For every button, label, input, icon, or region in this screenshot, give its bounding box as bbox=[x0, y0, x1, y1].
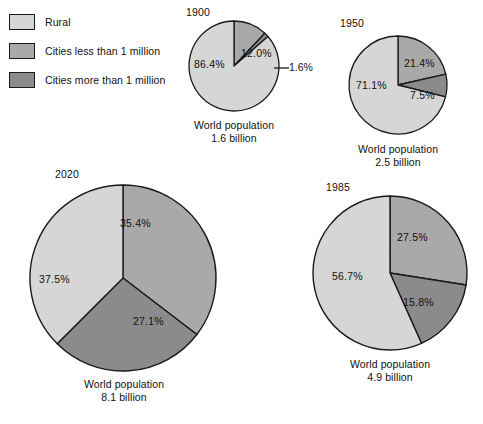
legend-swatch-rural bbox=[9, 14, 35, 30]
pie-2020-caption: World population 8.1 billion bbox=[58, 378, 190, 404]
legend-label-cities-more-than-1-million: Cities more than 1 million bbox=[45, 74, 165, 86]
pie-1985-label-cities-more-than-1-million: 15.8% bbox=[403, 296, 434, 308]
legend-swatch-cities-more-than-1-million bbox=[9, 72, 35, 88]
pie-1950-label-rural: 71.1% bbox=[356, 79, 387, 91]
legend-item-cities-more-than-1-million: Cities more than 1 million bbox=[9, 68, 184, 91]
pie-1900-label-rural: 86.4% bbox=[194, 58, 225, 70]
pie-2020-label-rural: 37.5% bbox=[39, 273, 70, 285]
legend-item-cities-less-than-1-million: Cities less than 1 million bbox=[9, 39, 184, 62]
legend-swatch-cities-less-than-1-million bbox=[9, 43, 35, 59]
pie-1900-label-cities-less-than-1-million: 12.0% bbox=[241, 47, 272, 59]
pie-1985-caption-line1: World population bbox=[324, 358, 456, 371]
legend-item-rural: Rural bbox=[9, 10, 184, 33]
pie-2020-label-cities-less-than-1-million: 35.4% bbox=[120, 217, 151, 229]
pie-1985-caption: World population 4.9 billion bbox=[324, 358, 456, 384]
legend-label-cities-less-than-1-million: Cities less than 1 million bbox=[45, 45, 160, 57]
world-population-pie-figure: Rural Cities less than 1 million Cities … bbox=[0, 0, 483, 424]
pie-1985-label-rural: 56.7% bbox=[332, 270, 363, 282]
pie-1900-caption-line1: World population bbox=[176, 119, 292, 132]
pie-chart-2020: 2020 37.5% 35.4% 27.1% World population … bbox=[29, 184, 221, 404]
pie-1950-caption-line1: World population bbox=[332, 143, 464, 156]
pie-1950-year-label: 1950 bbox=[340, 17, 364, 29]
pie-1900-caption: World population 1.6 billion bbox=[176, 119, 292, 145]
pie-chart-1985: 1985 56.7% 27.5% 15.8% World population … bbox=[312, 195, 472, 385]
pie-chart-1950: 1950 71.1% 21.4% 7.5% World population 2… bbox=[348, 35, 452, 175]
pie-1985-label-cities-less-than-1-million: 27.5% bbox=[397, 231, 428, 243]
legend: Rural Cities less than 1 million Cities … bbox=[9, 10, 184, 97]
pie-1900-leader-line bbox=[274, 66, 290, 70]
pie-2020-label-cities-more-than-1-million: 27.1% bbox=[133, 315, 164, 327]
pie-1950-caption: World population 2.5 billion bbox=[332, 143, 464, 169]
pie-2020-caption-line2: 8.1 billion bbox=[58, 391, 190, 404]
legend-label-rural: Rural bbox=[45, 16, 71, 28]
pie-1950-label-cities-more-than-1-million: 7.5% bbox=[410, 89, 435, 101]
pie-2020-year-label: 2020 bbox=[55, 168, 79, 180]
pie-1985-caption-line2: 4.9 billion bbox=[324, 371, 456, 384]
pie-1900-year-label: 1900 bbox=[186, 6, 210, 18]
pie-1985-year-label: 1985 bbox=[326, 181, 350, 193]
pie-chart-1900: 1900 86.4% 12.0% 1.6% World population 1… bbox=[188, 20, 284, 140]
pie-1900-caption-line2: 1.6 billion bbox=[176, 132, 292, 145]
pie-1950-label-cities-less-than-1-million: 21.4% bbox=[404, 57, 435, 69]
pie-1950-caption-line2: 2.5 billion bbox=[332, 156, 464, 169]
pie-1900-label-cities-more-than-1-million: 1.6% bbox=[289, 61, 313, 73]
pie-2020-caption-line1: World population bbox=[58, 378, 190, 391]
